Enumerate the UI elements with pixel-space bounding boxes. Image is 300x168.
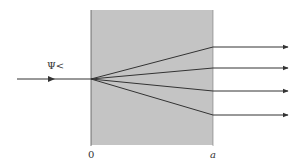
outgoing-rays xyxy=(213,47,288,115)
scattering-diagram xyxy=(0,0,300,168)
incident-wave-label: Ψ< xyxy=(47,60,64,71)
left-boundary-label: 0 xyxy=(88,149,94,160)
incident-arrow-icon xyxy=(48,76,55,82)
right-boundary-label: a xyxy=(210,149,216,160)
